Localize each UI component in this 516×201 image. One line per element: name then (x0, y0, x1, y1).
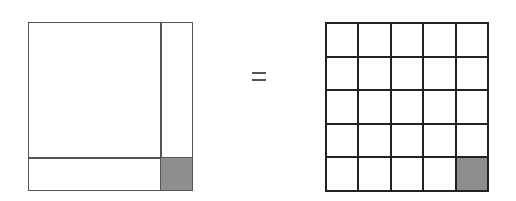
grid-cell (327, 158, 357, 190)
grid-cell (359, 158, 389, 190)
grid-cell (424, 125, 454, 157)
grid-cell (327, 58, 357, 90)
grid-cell (327, 24, 357, 56)
grid-cell-shaded (457, 158, 487, 190)
grid-cell (457, 58, 487, 90)
shaded-corner-square (160, 157, 193, 191)
grid-cell (392, 125, 422, 157)
grid-cell (424, 24, 454, 56)
grid-cell (327, 91, 357, 123)
grid-cell (392, 158, 422, 190)
grid-cell (424, 58, 454, 90)
equals-bar-top (252, 72, 266, 74)
grid-cell (424, 158, 454, 190)
grid-cell (457, 125, 487, 157)
grid-cell (457, 24, 487, 56)
grid-cell (327, 125, 357, 157)
grid-cell (424, 91, 454, 123)
grid-cell (359, 91, 389, 123)
grid-cell (457, 91, 487, 123)
grid-cell (392, 24, 422, 56)
grid-cell (359, 58, 389, 90)
grid-cell (359, 125, 389, 157)
equals-bar-bottom (252, 79, 266, 81)
five-by-five-grid (325, 22, 489, 192)
grid-cell (392, 58, 422, 90)
grid-cell (359, 24, 389, 56)
grid-cell (392, 91, 422, 123)
